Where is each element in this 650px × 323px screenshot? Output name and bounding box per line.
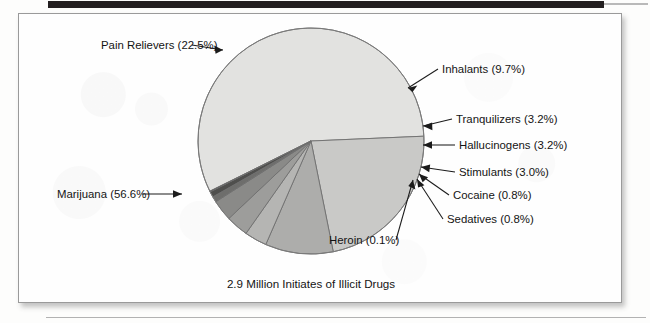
pie-chart: Pain Relievers (22.5%) Marijuana (56.6%)… — [19, 14, 621, 302]
label-tranquilizers: Tranquilizers (3.2%) — [456, 113, 558, 125]
pie-slices — [198, 28, 424, 254]
arrowhead-tranquilizers — [423, 123, 432, 131]
label-pain-relievers: Pain Relievers (22.5%) — [101, 39, 218, 51]
chart-figure-box: Pain Relievers (22.5%) Marijuana (56.6%)… — [18, 13, 622, 303]
label-inhalants: Inhalants (9.7%) — [442, 63, 525, 75]
figure-page: Pain Relievers (22.5%) Marijuana (56.6%)… — [0, 0, 650, 323]
arrowhead-marijuana — [173, 190, 182, 198]
leader-inhalants — [408, 69, 438, 88]
label-sedatives: Sedatives (0.8%) — [447, 213, 534, 225]
page-header-rule-tail — [604, 3, 648, 5]
chart-caption: 2.9 Million Initiates of Illicit Drugs — [227, 277, 395, 290]
arrowhead-stimulants — [421, 165, 430, 173]
label-hallucinogens: Hallucinogens (3.2%) — [459, 139, 567, 151]
arrowhead-cocaine — [419, 174, 428, 182]
label-cocaine: Cocaine (0.8%) — [453, 189, 532, 201]
page-footer-rule — [46, 317, 646, 318]
page-header-rule — [48, 1, 604, 8]
label-stimulants: Stimulants (3.0%) — [459, 166, 549, 178]
label-heroin: Heroin (0.1%) — [329, 234, 399, 246]
label-marijuana: Marijuana (56.6%) — [57, 188, 150, 200]
